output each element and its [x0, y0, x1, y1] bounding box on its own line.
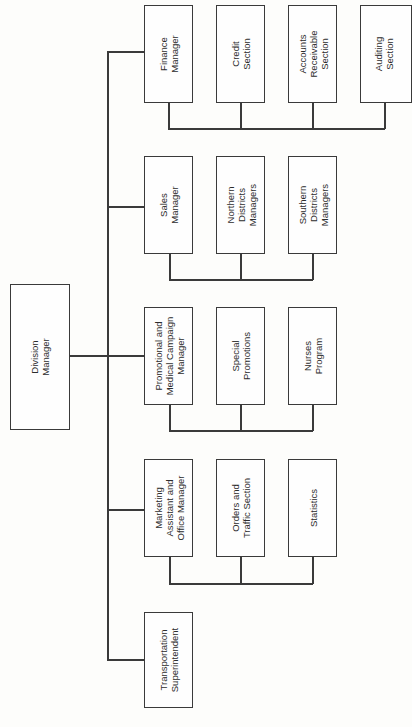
northern-districts-label: Northern Districts Managers	[224, 184, 257, 226]
southern-districts-label: Southern Districts Managers	[296, 184, 329, 226]
marketing-bus	[169, 583, 313, 585]
sales-drop	[169, 254, 171, 280]
orders-traffic-box: Orders and Traffic Section	[216, 459, 265, 557]
finance-connector	[107, 51, 144, 53]
spine-line	[107, 51, 109, 660]
transportation-connector	[107, 659, 144, 661]
transportation-superintendent-box: Transportation Superintendent	[144, 612, 193, 708]
promotional-manager-label: Promotional and Medical Campaign Manager	[152, 317, 185, 396]
sales-connector	[107, 206, 144, 208]
marketing-manager-label: Marketing Assistant and Office Manager	[152, 476, 185, 541]
northern-drop	[240, 254, 242, 280]
accounts-receivable-label: Accounts Receivable Section	[296, 31, 329, 78]
nurses-drop	[312, 405, 314, 431]
division-manager-box: Division Manager	[10, 284, 70, 430]
statistics-box: Statistics	[288, 459, 337, 557]
accounts-receivable-box: Accounts Receivable Section	[288, 5, 337, 103]
northern-districts-box: Northern Districts Managers	[216, 156, 265, 254]
nurses-program-box: Nurses Program	[288, 307, 337, 405]
auditing-drop	[384, 103, 386, 129]
finance-manager-label: Finance Manager	[158, 35, 180, 73]
orders-drop	[240, 557, 242, 584]
sales-manager-box: Sales Manager	[144, 156, 193, 254]
nurses-program-label: Nurses Program	[302, 338, 324, 374]
marketing-manager-box: Marketing Assistant and Office Manager	[144, 459, 193, 557]
special-promotions-box: Special Promotions	[216, 307, 265, 405]
marketing-drop	[169, 557, 171, 584]
auditing-section-label: Auditing Section	[373, 37, 395, 71]
credit-drop	[240, 103, 242, 129]
southern-districts-box: Southern Districts Managers	[288, 156, 337, 254]
statistics-label: Statistics	[307, 489, 318, 527]
special-drop	[240, 405, 242, 431]
accounts-drop	[312, 103, 314, 129]
sales-manager-label: Sales Manager	[158, 186, 180, 224]
finance-drop	[168, 103, 170, 129]
promotional-drop	[169, 405, 171, 431]
division-manager-label: Division Manager	[29, 338, 51, 376]
credit-section-box: Credit Section	[216, 5, 265, 103]
auditing-section-box: Auditing Section	[360, 5, 412, 103]
finance-manager-box: Finance Manager	[144, 5, 193, 103]
sales-bus	[169, 279, 313, 281]
promotional-bus	[169, 430, 313, 432]
special-promotions-label: Special Promotions	[230, 332, 252, 380]
transportation-superintendent-label: Transportation Superintendent	[158, 628, 180, 692]
credit-section-label: Credit Section	[230, 38, 252, 70]
orders-traffic-label: Orders and Traffic Section	[230, 478, 252, 538]
marketing-connector	[107, 509, 144, 511]
southern-drop	[312, 254, 314, 280]
statistics-drop	[312, 557, 314, 584]
finance-bus	[168, 128, 385, 130]
promotional-manager-box: Promotional and Medical Campaign Manager	[144, 307, 193, 405]
